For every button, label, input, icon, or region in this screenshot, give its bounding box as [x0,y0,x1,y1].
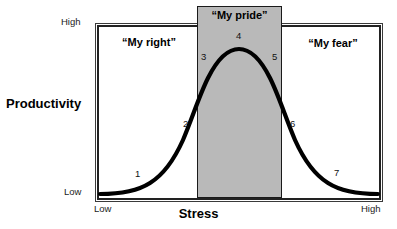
zone-label-my-fear: “My fear” [292,37,374,49]
curve-point-6: 6 [290,118,295,129]
curve-point-4: 4 [236,30,241,41]
curve-point-1: 1 [135,168,140,179]
curve-point-3: 3 [201,51,206,62]
stress-productivity-figure: Productivity Stress High Low Low High “M… [0,0,397,229]
y-axis-tick-low: Low [64,186,81,197]
zone-label-my-right: “My right” [108,36,190,48]
zone-label-my-pride: “My pride” [197,9,282,21]
y-axis-title: Productivity [6,96,81,111]
x-axis-title: Stress [0,206,397,221]
x-axis-tick-low: Low [94,203,111,214]
curve-point-2: 2 [183,118,188,129]
y-axis-tick-high: High [61,16,81,27]
curve-point-5: 5 [272,51,277,62]
curve-point-7: 7 [334,167,339,178]
x-axis-tick-high: High [361,203,381,214]
